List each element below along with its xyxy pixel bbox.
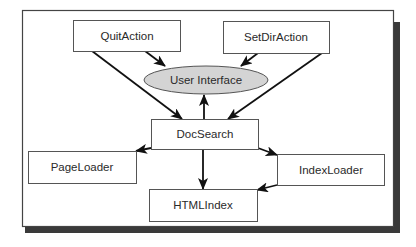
node-htmlindex[interactable]: HTMLIndex <box>150 190 258 222</box>
node-pageloader[interactable]: PageLoader <box>29 152 137 184</box>
node-setdiraction[interactable]: SetDirAction <box>224 22 330 54</box>
setdiraction-label: SetDirAction <box>244 31 308 43</box>
htmlindex-label: HTMLIndex <box>173 199 233 211</box>
diagram-canvas: QuitAction SetDirAction User Interface D… <box>0 0 416 247</box>
quitaction-label: QuitAction <box>100 30 153 42</box>
node-quitaction[interactable]: QuitAction <box>74 21 181 52</box>
pageloader-label: PageLoader <box>51 161 114 173</box>
user-interface-label: User Interface <box>170 74 242 86</box>
node-docsearch[interactable]: DocSearch <box>152 120 259 150</box>
node-indexloader[interactable]: IndexLoader <box>278 155 385 186</box>
node-user-interface[interactable]: User Interface <box>144 66 268 94</box>
docsearch-label: DocSearch <box>177 128 234 140</box>
indexloader-label: IndexLoader <box>299 164 363 176</box>
